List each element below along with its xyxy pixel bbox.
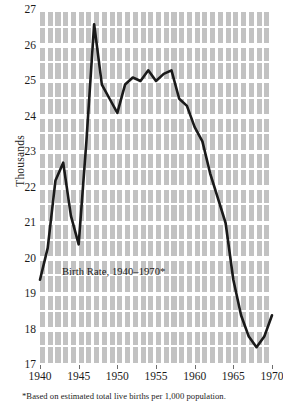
x-tick-mark <box>79 365 80 369</box>
x-tick-label: 1970 <box>252 371 283 383</box>
x-tick-mark <box>117 365 118 369</box>
y-tick-label: 27 <box>2 4 36 16</box>
plot-area <box>40 10 272 365</box>
y-tick-label: 17 <box>2 359 36 371</box>
y-tick-label: 18 <box>2 324 36 336</box>
y-tick-label: 21 <box>2 217 36 229</box>
x-tick-mark <box>40 365 41 369</box>
data-line-svg <box>40 10 272 365</box>
x-tick-mark <box>195 365 196 369</box>
x-tick-label: 1940 <box>20 371 60 383</box>
y-tick-label: 25 <box>2 75 36 87</box>
x-tick-label: 1955 <box>136 371 176 383</box>
x-tick-label: 1945 <box>59 371 99 383</box>
chart-caption: Birth Rate, 1940–1970* <box>62 266 165 277</box>
y-tick-label: 24 <box>2 111 36 123</box>
y-axis-tick-labels: 1718192021222324252627 <box>0 0 36 410</box>
y-tick-label: 22 <box>2 182 36 194</box>
y-tick-label: 23 <box>2 146 36 158</box>
birth-rate-line <box>40 24 272 347</box>
y-tick-label: 19 <box>2 288 36 300</box>
y-tick-label: 20 <box>2 253 36 265</box>
x-tick-label: 1960 <box>175 371 215 383</box>
x-tick-label: 1950 <box>97 371 137 383</box>
x-tick-mark <box>156 365 157 369</box>
x-tick-mark <box>272 365 273 369</box>
birth-rate-chart-figure: Thousands 1718192021222324252627 Birth R… <box>0 0 283 410</box>
x-axis-tick-labels: 1940194519501955196019651970 <box>0 371 283 391</box>
x-tick-label: 1965 <box>213 371 253 383</box>
x-tick-mark <box>233 365 234 369</box>
y-tick-label: 26 <box>2 40 36 52</box>
footnote: *Based on estimated total live births pe… <box>22 391 226 401</box>
